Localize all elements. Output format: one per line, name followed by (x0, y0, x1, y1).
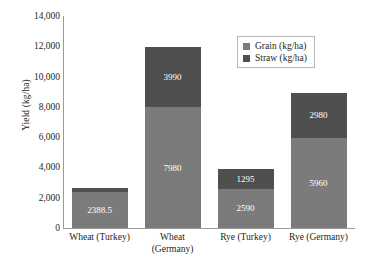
bar-group[interactable]: 59602980 (291, 93, 347, 228)
bar-group[interactable]: 25901295 (218, 169, 274, 228)
bar-value-label-straw: 1295 (237, 174, 255, 184)
bar-value-label-grain: 2590 (237, 203, 255, 213)
legend-swatch-straw (243, 55, 250, 62)
x-axis-category-label: Rye (Germany) (282, 232, 355, 244)
x-axis-category-label: Wheat(Germany) (136, 232, 209, 255)
bar-value-label-straw: 3990 (164, 72, 182, 82)
bar-group[interactable]: 79803990 (145, 47, 201, 228)
bar-segment-straw[interactable]: 3990 (145, 47, 201, 107)
y-axis-tick-label: 4,000 (16, 162, 60, 172)
y-axis-tick-label: 0 (16, 223, 60, 233)
legend-label-grain: Grain (kg/ha) (255, 40, 306, 52)
bar-segment-grain[interactable]: 2388.5 (72, 192, 128, 228)
y-axis-tick-label: 2,000 (16, 193, 60, 203)
bar-segment-grain[interactable]: 5960 (291, 138, 347, 228)
bar-segment-grain[interactable]: 7980 (145, 107, 201, 228)
y-axis-tick-label: 10,000 (16, 72, 60, 82)
y-axis-tick-labels: 14,00012,00010,0008,0006,0004,0002,0000 (14, 0, 60, 264)
bar-value-label-straw: 2980 (310, 110, 328, 120)
bar-segment-straw[interactable]: 223.6 (72, 188, 128, 191)
legend-label-straw: Straw (kg/ha) (255, 52, 307, 64)
y-axis-tick-label: 6,000 (16, 132, 60, 142)
chart-legend: Grain (kg/ha) Straw (kg/ha) (237, 36, 315, 68)
y-axis-tick-label: 8,000 (16, 102, 60, 112)
legend-item-grain: Grain (kg/ha) (243, 40, 307, 52)
bar-value-label-grain: 2388.5 (87, 205, 112, 215)
legend-swatch-grain (243, 43, 250, 50)
bar-group[interactable]: 2388.5223.6 (72, 188, 128, 228)
stacked-bar-chart: Yield (kg/ha) 14,00012,00010,0008,0006,0… (0, 0, 392, 264)
y-axis-line (63, 16, 64, 228)
bar-segment-grain[interactable]: 2590 (218, 189, 274, 228)
bar-segment-straw[interactable]: 2980 (291, 93, 347, 138)
bar-segment-straw[interactable]: 1295 (218, 169, 274, 189)
y-axis-tick-label: 12,000 (16, 41, 60, 51)
bar-value-label-grain: 7980 (164, 163, 182, 173)
x-axis-line (63, 228, 355, 229)
y-axis-tick-label: 14,000 (16, 11, 60, 21)
x-axis-category-label: Wheat (Turkey) (63, 232, 136, 244)
legend-item-straw: Straw (kg/ha) (243, 52, 307, 64)
bar-value-label-grain: 5960 (310, 178, 328, 188)
x-axis-category-label: Rye (Turkey) (209, 232, 282, 244)
